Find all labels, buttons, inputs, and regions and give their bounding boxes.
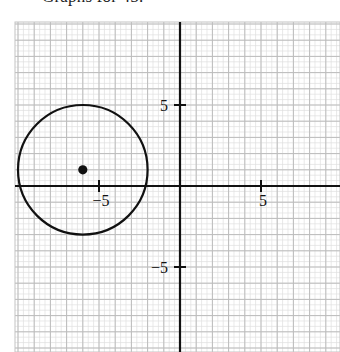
- y-axis-label-negative: −5: [151, 259, 168, 276]
- coordinate-plane-svg: 5−5−55: [0, 0, 340, 352]
- x-axis-label-positive: 5: [259, 192, 267, 209]
- circle-center-point: [78, 165, 87, 174]
- y-axis-label-positive: 5: [160, 97, 168, 114]
- graph-figure: 5−5−55: [0, 0, 340, 352]
- x-axis-label-negative: −5: [92, 192, 109, 209]
